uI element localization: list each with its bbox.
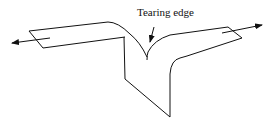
- tearing-specimen-drawing: [0, 0, 275, 124]
- vertical-leg: [124, 27, 242, 117]
- left-flap: [29, 22, 147, 57]
- tearing-edge-pointer: [150, 27, 154, 42]
- right-pull-arrow: [222, 25, 262, 33]
- left-pull-arrow: [12, 38, 50, 43]
- tearing-edge-label: Tearing edge: [137, 6, 194, 18]
